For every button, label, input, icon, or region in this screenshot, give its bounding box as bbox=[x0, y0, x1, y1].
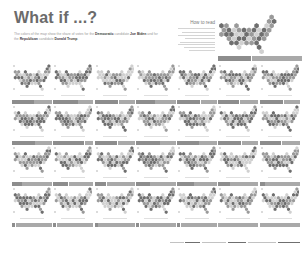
state-hex bbox=[265, 117, 268, 121]
state-hex bbox=[220, 152, 223, 156]
state-hex bbox=[82, 210, 85, 214]
state-hex bbox=[47, 152, 50, 156]
state-hex bbox=[72, 76, 75, 80]
rep-share-segment bbox=[155, 100, 176, 104]
scenario-card bbox=[136, 187, 176, 228]
state-hex bbox=[32, 114, 35, 118]
state-hex bbox=[192, 158, 195, 162]
scenario-card bbox=[177, 64, 217, 105]
state-hex bbox=[148, 164, 151, 168]
state-hex bbox=[58, 199, 61, 203]
state-hex bbox=[285, 123, 288, 127]
state-hex bbox=[191, 155, 194, 159]
dem-share-segment bbox=[12, 223, 15, 227]
state-hex bbox=[244, 70, 247, 74]
state-hex bbox=[278, 76, 281, 80]
state-hex bbox=[139, 155, 142, 159]
state-hex bbox=[110, 158, 113, 162]
state-hex bbox=[201, 79, 204, 83]
state-hex bbox=[265, 152, 268, 156]
state-hex bbox=[72, 82, 75, 86]
state-hex bbox=[67, 155, 70, 159]
state-hex bbox=[273, 114, 276, 118]
state-hex bbox=[26, 196, 29, 200]
state-hex bbox=[232, 85, 235, 89]
state-hex bbox=[110, 117, 113, 121]
state-hex bbox=[239, 196, 242, 200]
state-hex bbox=[168, 76, 171, 80]
map-corner-marker bbox=[261, 188, 263, 190]
state-hex bbox=[156, 120, 159, 124]
state-hex bbox=[270, 73, 273, 77]
state-hex bbox=[229, 32, 234, 37]
state-hex bbox=[148, 111, 151, 115]
state-hex bbox=[242, 120, 245, 124]
state-hex bbox=[101, 73, 104, 77]
state-hex bbox=[268, 123, 271, 127]
state-hex bbox=[201, 73, 204, 77]
state-hex bbox=[32, 120, 35, 124]
state-hex bbox=[26, 126, 29, 130]
map-corner-marker bbox=[261, 170, 263, 172]
state-hex bbox=[230, 123, 233, 127]
state-hex bbox=[232, 126, 235, 130]
dem-share-segment bbox=[260, 182, 265, 186]
state-hex bbox=[277, 161, 280, 165]
state-hex bbox=[280, 202, 283, 206]
state-hex bbox=[34, 82, 37, 86]
state-hex bbox=[227, 76, 230, 80]
dem-share-segment bbox=[177, 100, 200, 104]
state-hex bbox=[115, 120, 118, 124]
state-hex bbox=[115, 155, 118, 159]
state-hex bbox=[41, 158, 44, 162]
state-hex bbox=[75, 205, 78, 209]
state-hex bbox=[290, 120, 293, 124]
state-hex bbox=[101, 161, 104, 165]
state-hex bbox=[239, 32, 244, 37]
state-hex bbox=[229, 120, 232, 124]
state-hex bbox=[237, 158, 240, 162]
state-hex bbox=[84, 155, 87, 159]
state-hex bbox=[77, 114, 80, 118]
state-hex bbox=[237, 199, 240, 203]
state-hex bbox=[159, 161, 162, 165]
state-hex bbox=[182, 111, 185, 115]
state-hex bbox=[143, 196, 146, 200]
state-hex bbox=[130, 105, 133, 109]
state-hex bbox=[106, 199, 109, 203]
state-hex bbox=[280, 155, 283, 159]
state-hex bbox=[194, 79, 197, 83]
state-hex bbox=[103, 205, 106, 209]
state-hex bbox=[287, 120, 290, 124]
intro-text: The colors of the map show the share of … bbox=[14, 32, 159, 42]
state-hex bbox=[182, 70, 185, 74]
state-hex bbox=[290, 114, 293, 118]
state-hex bbox=[143, 202, 146, 206]
state-hex bbox=[229, 202, 232, 206]
scenario-caption bbox=[103, 95, 127, 96]
state-hex bbox=[209, 199, 212, 203]
state-hex bbox=[72, 199, 75, 203]
state-hex bbox=[273, 155, 276, 159]
state-hex bbox=[47, 105, 50, 109]
state-hex bbox=[69, 205, 72, 209]
state-hex bbox=[19, 155, 22, 159]
state-hex bbox=[149, 202, 152, 206]
state-hex bbox=[127, 76, 130, 80]
state-hex bbox=[209, 70, 212, 74]
state-hex bbox=[127, 111, 130, 115]
rep-share-segment bbox=[181, 223, 217, 227]
state-hex bbox=[166, 120, 169, 124]
state-hex bbox=[245, 126, 248, 130]
scenario-card bbox=[95, 105, 135, 146]
state-hex bbox=[34, 164, 37, 168]
state-hex bbox=[144, 199, 147, 203]
state-hex bbox=[22, 73, 25, 77]
state-hex bbox=[220, 70, 223, 74]
state-hex bbox=[290, 79, 293, 83]
state-hex bbox=[232, 27, 237, 32]
state-hex bbox=[122, 155, 125, 159]
state-hex bbox=[62, 117, 65, 121]
state-hex bbox=[273, 161, 276, 165]
state-hex bbox=[89, 187, 92, 191]
